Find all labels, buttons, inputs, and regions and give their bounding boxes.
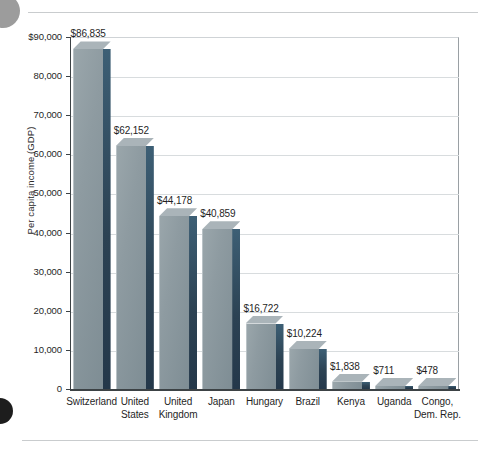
bar xyxy=(246,316,284,389)
y-tick-label: 80,000 xyxy=(0,70,62,81)
bar xyxy=(202,221,240,389)
y-tick-label: 10,000 xyxy=(0,344,62,355)
gridline xyxy=(70,116,459,117)
x-axis-label-line: Dem. Rep. xyxy=(394,409,480,422)
bar-side-face xyxy=(362,382,370,389)
bar-side-face xyxy=(189,216,197,389)
bar-value-label: $16,722 xyxy=(244,303,279,314)
bar-top-face xyxy=(116,138,154,146)
bar-front-face xyxy=(116,146,147,389)
bar-side-face xyxy=(276,324,284,389)
bar-top-face xyxy=(289,341,327,349)
y-tick-label: 0 xyxy=(0,383,62,394)
bar-side-face xyxy=(319,349,327,389)
bar-top-face xyxy=(418,378,456,386)
y-tick-label: 50,000 xyxy=(0,187,62,198)
bar xyxy=(73,41,111,389)
x-axis-label: Congo,Dem. Rep. xyxy=(394,396,480,421)
bar xyxy=(116,138,154,389)
bar-front-face xyxy=(202,229,233,389)
bar-side-face xyxy=(103,49,111,389)
y-tick-label: 20,000 xyxy=(0,305,62,316)
bar-front-face xyxy=(332,382,363,389)
bar-front-face xyxy=(159,216,190,389)
gridline xyxy=(70,77,459,78)
bar-top-face xyxy=(332,374,370,382)
bar-chart: Per capita income (GDP) $90,00080,00070,… xyxy=(0,0,488,455)
bar-value-label: $44,178 xyxy=(157,195,192,206)
bar-side-face xyxy=(146,146,154,389)
bar-value-label: $86,835 xyxy=(71,28,106,39)
bar xyxy=(289,341,327,389)
y-tick-label: 60,000 xyxy=(0,148,62,159)
x-axis-label-line: Congo, xyxy=(394,396,480,409)
bar-side-face xyxy=(232,229,240,389)
bar-front-face xyxy=(246,324,277,389)
x-axis-line xyxy=(70,389,460,391)
bar xyxy=(375,378,413,389)
bar-value-label: $10,224 xyxy=(287,328,322,339)
bar-top-face xyxy=(202,221,240,229)
bar-value-label: $711 xyxy=(373,365,394,376)
bar-top-face xyxy=(375,378,413,386)
bar-front-face xyxy=(73,49,104,389)
y-tick-label: 30,000 xyxy=(0,266,62,277)
bar-value-label: $62,152 xyxy=(114,125,149,136)
y-axis-line xyxy=(70,37,71,390)
bar xyxy=(418,378,456,389)
bar-value-label: $40,859 xyxy=(200,208,235,219)
bar-value-label: $478 xyxy=(416,365,438,376)
bar-top-face xyxy=(246,316,284,324)
bar-front-face xyxy=(289,349,320,389)
bar-top-face xyxy=(73,41,111,49)
y-tick-label: 70,000 xyxy=(0,109,62,120)
bar xyxy=(159,208,197,389)
bar-value-label: $1,838 xyxy=(330,361,360,372)
bar-top-face xyxy=(159,208,197,216)
bar xyxy=(332,374,370,389)
x-axis-label-line: Kingdom xyxy=(135,409,221,422)
y-tick-label: $90,000 xyxy=(0,31,62,42)
y-tick-label: 40,000 xyxy=(0,227,62,238)
plot-area xyxy=(70,37,459,389)
